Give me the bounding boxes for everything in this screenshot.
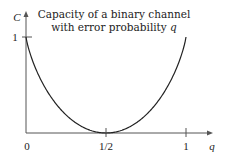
chart-title-line-1: Capacity of a binary channel xyxy=(38,8,191,20)
x-axis-label: q xyxy=(209,140,215,152)
y-axis-arrow-icon xyxy=(24,11,29,17)
x-tick-label-1: 1 xyxy=(183,140,189,152)
chart-title-line-2: with error probability q xyxy=(51,21,177,33)
y-tick-label-1: 1 xyxy=(12,31,18,43)
x-axis-arrow-icon xyxy=(207,131,213,136)
capacity-chart: Capacity of a binary channel with error … xyxy=(0,0,226,162)
capacity-curve xyxy=(26,37,186,133)
x-tick-label-half: 1/2 xyxy=(99,140,113,152)
x-tick-label-0: 0 xyxy=(24,140,30,152)
chart-title-q: q xyxy=(170,21,177,33)
chart-title-line-2-text: with error probability xyxy=(51,21,170,33)
y-axis-label: C xyxy=(13,11,21,23)
